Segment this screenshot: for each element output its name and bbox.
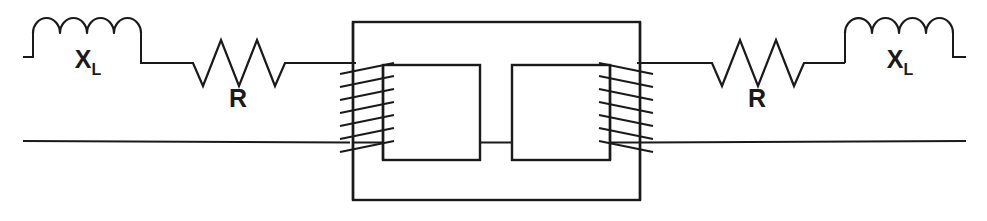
- right-inductor-symbol: X: [887, 45, 904, 73]
- right-inductor-subscript: L: [903, 61, 913, 78]
- transformer-window-left: [383, 65, 480, 160]
- left-inductor-exit-lead: [141, 33, 176, 63]
- right-branch: R XL: [637, 18, 966, 112]
- left-terminal-lead: [23, 33, 33, 57]
- left-inductor: [33, 18, 176, 63]
- left-inductor-symbol: X: [75, 45, 92, 73]
- return-conductor: [23, 141, 966, 143]
- left-resistor: [176, 40, 308, 86]
- bottom-wire-left-segment: [23, 141, 350, 143]
- diagram-canvas: XL R: [0, 0, 987, 221]
- right-resistor: [700, 40, 845, 86]
- transformer: [340, 22, 653, 200]
- right-resistor-zigzag: [700, 40, 845, 86]
- left-resistor-label: R: [229, 84, 247, 112]
- left-branch: XL R: [23, 18, 356, 112]
- right-inductor-coil: [845, 18, 953, 33]
- right-inductor: [845, 18, 966, 63]
- left-resistor-zigzag: [176, 40, 308, 86]
- left-inductor-label: XL: [75, 45, 102, 78]
- right-inductor-label: XL: [887, 45, 914, 78]
- circuit-diagram-svg: XL R: [0, 0, 987, 221]
- left-inductor-subscript: L: [91, 61, 101, 78]
- right-resistor-label: R: [748, 84, 766, 112]
- transformer-window-right: [512, 65, 610, 160]
- left-inductor-coil: [33, 18, 141, 33]
- bottom-wire-right-segment: [643, 141, 966, 143]
- right-terminal-lead: [953, 33, 966, 57]
